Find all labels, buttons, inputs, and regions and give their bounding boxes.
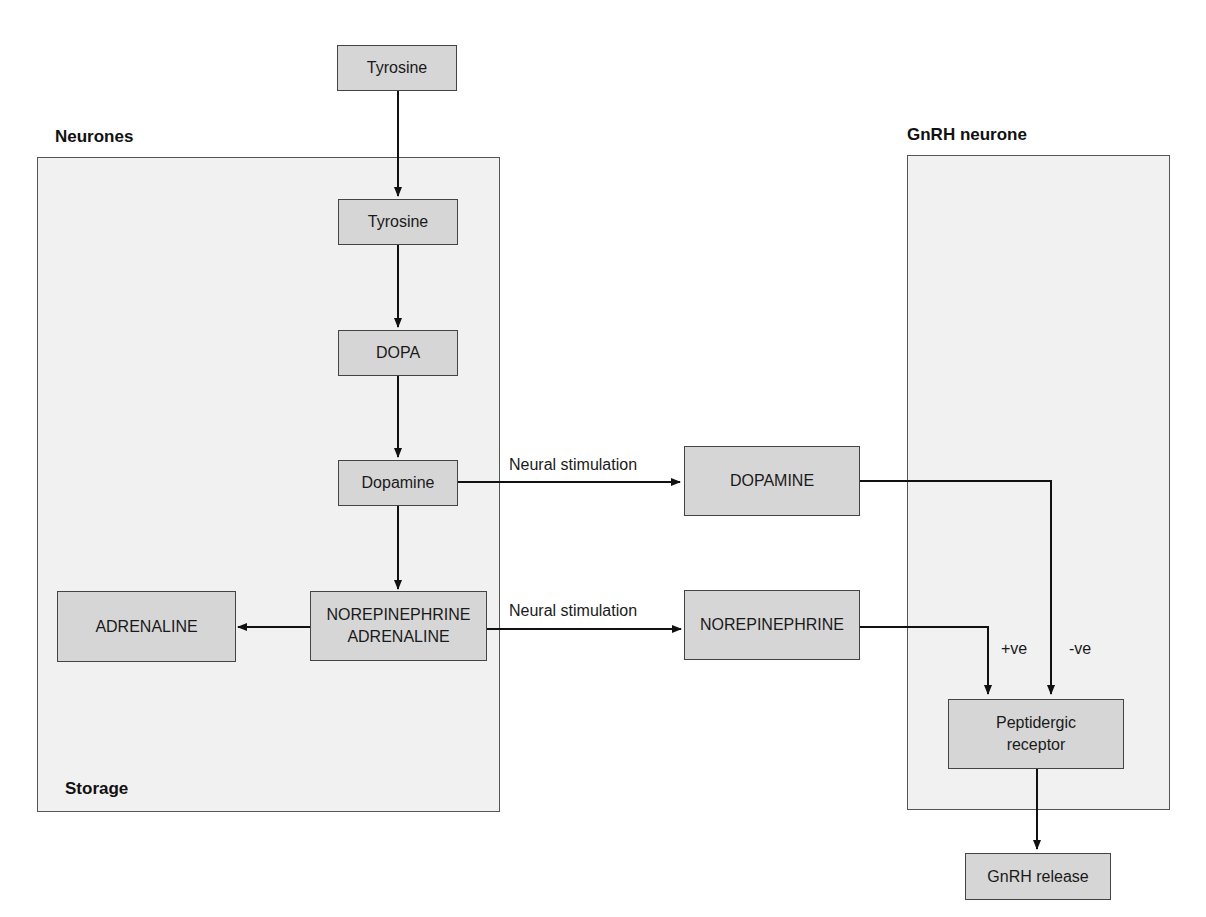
node-adrenaline: ADRENALINE <box>57 591 236 662</box>
label-neural-stimulation-norepinephrine: Neural stimulation <box>509 602 637 620</box>
node-tyrosine-neuronal: Tyrosine <box>338 199 458 245</box>
node-dopa: DOPA <box>338 330 458 376</box>
node-dopamine-neuronal: Dopamine <box>338 460 458 506</box>
node-norepinephrine-released: NOREPINEPHRINE <box>684 590 860 660</box>
node-peptidergic-receptor: Peptidergic receptor <box>948 699 1124 769</box>
storage-label: Storage <box>65 779 128 799</box>
node-gnrh-release: GnRH release <box>965 853 1111 900</box>
gnrh-neurone-title: GnRH neurone <box>907 125 1027 145</box>
label-neural-stimulation-dopamine: Neural stimulation <box>509 456 637 474</box>
node-tyrosine-precursor: Tyrosine <box>337 45 457 91</box>
neurones-title: Neurones <box>55 127 133 147</box>
label-positive-effect: +ve <box>1001 640 1027 658</box>
label-negative-effect: -ve <box>1069 640 1091 658</box>
node-norepinephrine-adrenaline: NOREPINEPHRINE ADRENALINE <box>310 591 487 661</box>
node-dopamine-released: DOPAMINE <box>684 446 860 516</box>
